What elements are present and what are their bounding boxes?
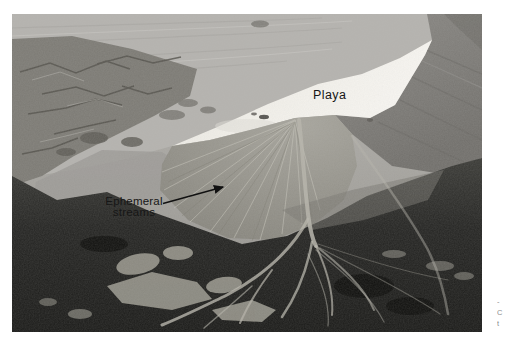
playa-label: Playa xyxy=(313,88,346,102)
caption-fragment-line3: t xyxy=(497,318,512,329)
caption-fragment-line1: - xyxy=(497,296,512,307)
ephemeral-streams-label: Ephemeral streams xyxy=(94,196,174,218)
photo-grain-overlay xyxy=(12,14,482,332)
terrain-photo xyxy=(12,14,482,332)
caption-fragment-line2: C xyxy=(497,307,512,318)
aerial-photo-figure: Playa Ephemeral streams xyxy=(12,14,482,332)
textbook-page: Playa Ephemeral streams - C t xyxy=(0,0,512,349)
cropped-caption-fragment: - C t xyxy=(497,296,512,336)
ephemeral-streams-label-line2: streams xyxy=(113,206,155,218)
